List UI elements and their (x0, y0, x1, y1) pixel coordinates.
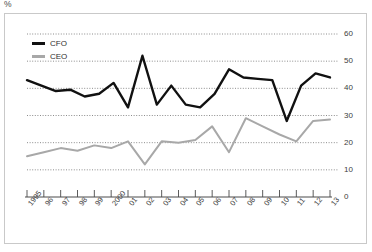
chart-frame: CFO CEO 0102030405060 199596979899200001… (4, 13, 367, 244)
legend-label-ceo: CEO (50, 52, 67, 61)
legend-item-cfo: CFO (32, 38, 67, 49)
y-tick-label: 50 (344, 56, 364, 65)
y-tick-label: 40 (344, 83, 364, 92)
series-lines-group (27, 56, 330, 165)
y-tick-label: 10 (344, 165, 364, 174)
series-line-ceo (27, 118, 330, 164)
legend-label-cfo: CFO (50, 39, 67, 48)
y-tick-label: 60 (344, 29, 364, 38)
chart-legend: CFO CEO (32, 38, 67, 64)
legend-item-ceo: CEO (32, 51, 67, 62)
y-tick-label: 30 (344, 111, 364, 120)
chart-page: % CFO CEO 0102030405060 1995969798992000… (0, 0, 372, 252)
y-tick-label: 20 (344, 138, 364, 147)
y-axis-unit-label: % (4, 0, 11, 9)
y-tick-label: 0 (344, 192, 364, 201)
legend-swatch-cfo (32, 42, 45, 46)
legend-swatch-ceo (32, 55, 45, 58)
